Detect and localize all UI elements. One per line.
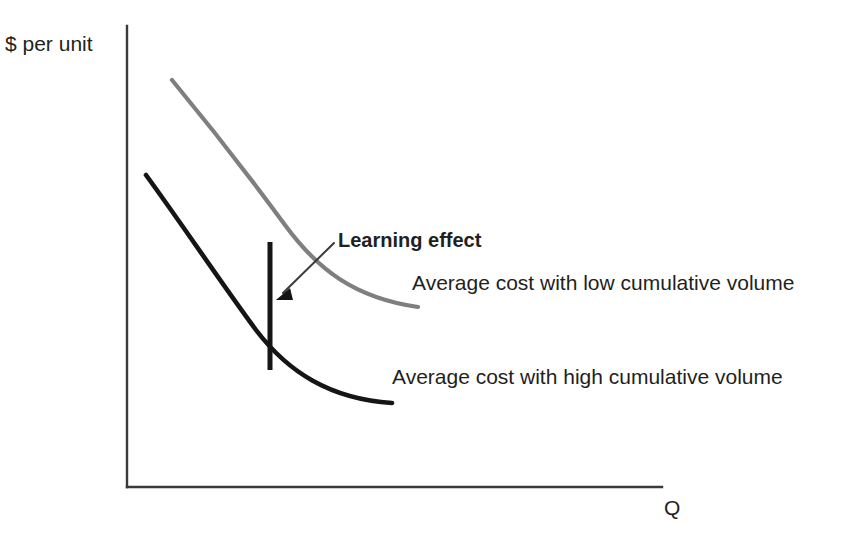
- series-label-high-cumulative-volume: Average cost with high cumulative volume: [392, 366, 783, 387]
- axes-group: [127, 26, 662, 487]
- series-label-low-cumulative-volume: Average cost with low cumulative volume: [412, 272, 794, 293]
- learning-effect-annotation-label: Learning effect: [338, 230, 481, 250]
- x-axis-title: Q: [664, 497, 680, 518]
- chart-figure: $ per unit Q Learning effect Average cos…: [0, 0, 857, 544]
- curve-low-cumulative-volume: [172, 80, 418, 307]
- y-axis-title: $ per unit: [5, 33, 93, 54]
